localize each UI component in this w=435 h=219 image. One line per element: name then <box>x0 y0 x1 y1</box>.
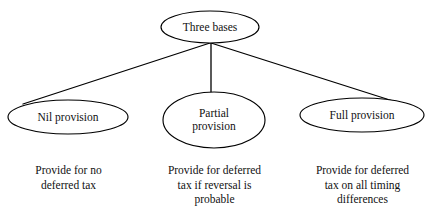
diagram-canvas: Three bases Nil provision Partial provis… <box>0 0 435 219</box>
node-shape-full-provision[interactable] <box>300 98 424 132</box>
caption-partial-provision: Provide for deferred tax if reversal is … <box>146 163 283 207</box>
connector-root-to-nil <box>23 43 210 104</box>
node-shape-three-bases[interactable] <box>161 11 259 43</box>
caption-nil-provision: Provide for no deferred tax <box>0 163 137 192</box>
node-shape-nil-provision[interactable] <box>8 100 128 134</box>
node-shape-partial-provision[interactable] <box>163 92 265 148</box>
caption-full-provision: Provide for deferred tax on all timing d… <box>294 163 431 207</box>
connector-root-to-full <box>211 43 393 101</box>
